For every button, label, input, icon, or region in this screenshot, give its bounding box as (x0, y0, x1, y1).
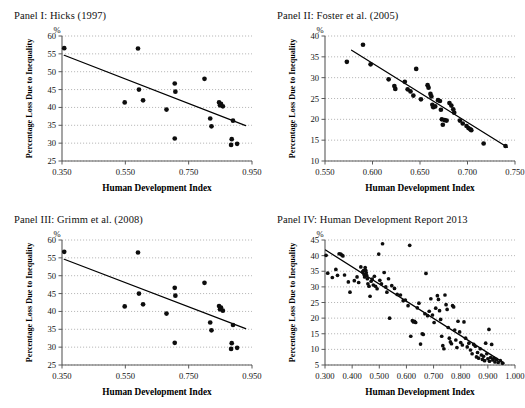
data-point (231, 118, 236, 123)
data-point (402, 79, 407, 84)
y-axis-unit-label: % (316, 25, 323, 35)
data-point (373, 274, 377, 278)
data-point (62, 46, 67, 51)
data-point (221, 104, 226, 109)
data-point (481, 141, 486, 146)
data-point (399, 293, 403, 297)
data-point (464, 336, 468, 340)
data-point (439, 318, 443, 322)
panel-2-plot: 101520253035400.5500.6000.6500.7000.750%… (263, 22, 525, 204)
data-point (458, 330, 462, 334)
data-point (415, 306, 419, 310)
y-axis-tick-label: 45 (47, 85, 56, 95)
x-axis-tick-label: 0.350 (52, 167, 71, 177)
y-axis-tick-label: 35 (310, 52, 319, 62)
data-point (348, 290, 352, 294)
data-point (408, 243, 412, 247)
y-axis-tick-label: 25 (47, 156, 56, 166)
x-axis-tick-label: 0.300 (315, 371, 334, 381)
panel-3-grimm: Panel III: Grimm et al. (2008) 253035404… (0, 204, 262, 408)
y-axis-unit-label: % (53, 25, 60, 35)
panel-1-hicks: Panel I: Hicks (1997) 25303540455055600.… (0, 0, 262, 204)
data-point (173, 89, 178, 94)
data-point (452, 305, 456, 309)
panel-2-title: Panel II: Foster et al. (2005) (277, 10, 398, 21)
data-point (384, 285, 388, 289)
data-point (440, 334, 444, 338)
data-point (202, 281, 207, 286)
x-axis-tick-label: 0.950 (242, 167, 261, 177)
y-axis-tick-label: 10 (310, 344, 319, 354)
data-point (208, 116, 213, 121)
data-point (388, 316, 392, 320)
data-point (417, 301, 421, 305)
data-point (173, 293, 178, 298)
x-axis-tick-label: 0.550 (315, 167, 334, 177)
data-point (229, 347, 234, 352)
x-axis-tick-label: 0.550 (116, 167, 135, 177)
four-panel-scatter-figure: Panel I: Hicks (1997) 25303540455055600.… (0, 0, 525, 408)
panel-4-hdr2013: Panel IV: Human Development Report 2013 … (263, 204, 525, 408)
data-point (503, 144, 508, 149)
data-point (419, 342, 423, 346)
y-axis-unit-label: % (53, 229, 60, 239)
data-point (387, 277, 391, 281)
data-point (421, 333, 425, 337)
data-point (141, 98, 146, 103)
data-point (361, 42, 366, 47)
data-point (438, 99, 443, 104)
panel-1-plot: 25303540455055600.3500.5500.7500.950%Per… (0, 22, 262, 204)
data-point (341, 254, 345, 258)
data-point (368, 62, 373, 67)
data-point (424, 272, 428, 276)
data-point (229, 341, 234, 346)
data-point (380, 282, 384, 286)
data-point (409, 334, 413, 338)
x-axis-title: Human Development Index (102, 387, 212, 397)
x-axis-tick-label: 0.800 (451, 371, 470, 381)
data-point (447, 336, 451, 340)
data-point (474, 344, 478, 348)
y-axis-tick-label: 40 (310, 251, 319, 261)
y-axis-tick-label: 20 (310, 114, 319, 124)
data-point (445, 308, 449, 312)
data-point (469, 128, 474, 133)
data-point (467, 341, 471, 345)
x-axis-tick-label: 0.700 (458, 167, 477, 177)
data-point (141, 302, 146, 307)
data-point (172, 136, 177, 141)
data-point (411, 93, 416, 98)
data-point (414, 67, 419, 72)
x-axis-tick-label: 0.750 (505, 167, 524, 177)
x-axis-tick-label: 0.950 (242, 371, 261, 381)
x-axis-tick-label: 0.650 (410, 167, 429, 177)
x-axis-tick-label: 0.750 (179, 167, 198, 177)
data-point (487, 328, 491, 332)
y-axis-tick-label: 15 (310, 329, 319, 339)
y-axis-tick-label: 55 (47, 49, 56, 59)
x-axis-title: Human Development Index (365, 183, 475, 193)
panel-1-title: Panel I: Hicks (1997) (14, 10, 106, 21)
data-point (442, 347, 446, 351)
data-point (478, 347, 482, 351)
data-point (437, 298, 441, 302)
y-axis-tick-label: 50 (47, 271, 56, 281)
data-point (355, 275, 359, 279)
data-point (377, 252, 381, 256)
y-axis-tick-label: 30 (47, 342, 56, 352)
data-point (164, 311, 169, 316)
y-axis-tick-label: 15 (310, 135, 319, 145)
data-point (385, 290, 389, 294)
x-axis-tick-label: 0.550 (116, 371, 135, 381)
data-point (390, 284, 394, 288)
data-point (365, 274, 369, 278)
y-axis-tick-label: 35 (47, 120, 56, 130)
y-axis-tick-label: 55 (47, 253, 56, 263)
data-point (229, 143, 234, 148)
data-point (485, 352, 489, 356)
y-axis-tick-label: 50 (47, 67, 56, 77)
panel-4-title: Panel IV: Human Development Report 2013 (277, 214, 468, 225)
data-point (476, 351, 480, 355)
data-point (427, 309, 431, 313)
data-point (454, 338, 458, 342)
